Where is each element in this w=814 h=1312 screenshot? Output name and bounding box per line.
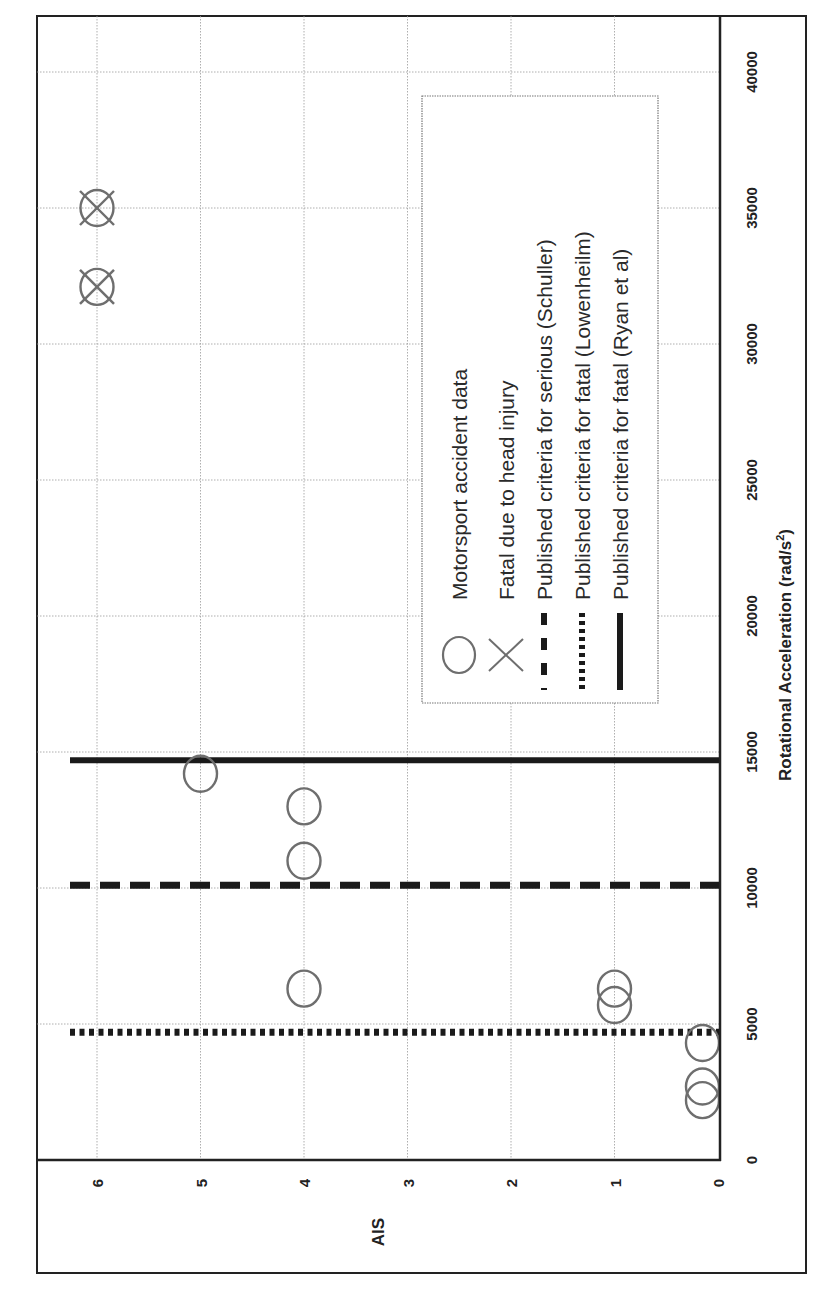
legend-label: Published criteria for fatal (Ryan et al… — [609, 249, 632, 600]
y-tick-label: 5 — [193, 1179, 210, 1187]
x-tick-label: 35000 — [743, 187, 760, 229]
reference-lines — [70, 760, 720, 1032]
legend-label: Fatal due to head injury — [495, 380, 518, 600]
x-tick-label: 20000 — [743, 595, 760, 637]
legend-label: Motorsport accident data — [448, 369, 471, 600]
x-tick-label: 25000 — [743, 459, 760, 501]
y-tick-label: 0 — [710, 1179, 727, 1187]
x-tick-label: 30000 — [743, 323, 760, 365]
y-tick-label: 3 — [400, 1179, 417, 1187]
y-tick-label: 1 — [607, 1179, 624, 1187]
y-tick-label: 6 — [89, 1179, 106, 1187]
x-tick-label: 0 — [743, 1156, 760, 1164]
y-tick-label: 4 — [296, 1178, 313, 1187]
y-tick-label: 2 — [503, 1179, 520, 1187]
accident-point — [686, 1025, 719, 1061]
x-tick-label: 5000 — [743, 1007, 760, 1040]
y-axis-title: AIS — [369, 1218, 388, 1246]
legend: Motorsport accident dataFatal due to hea… — [422, 96, 658, 703]
x-tick-label: 15000 — [743, 731, 760, 773]
x-tick-label: 40000 — [743, 51, 760, 93]
x-axis-title: Rotational Acceleration (rad/s2) — [774, 529, 795, 781]
chart: 0500010000150002000025000300003500040000… — [0, 0, 814, 1312]
legend-label: Published criteria for fatal (Lowenheilm… — [571, 231, 594, 600]
legend-label: Published criteria for serious (Schuller… — [533, 239, 556, 600]
x-tick-label: 10000 — [743, 867, 760, 909]
